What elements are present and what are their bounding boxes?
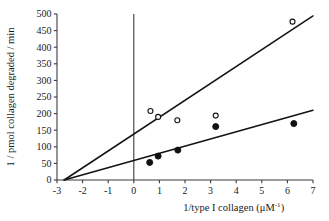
data-point-open bbox=[175, 118, 180, 123]
data-point-open bbox=[156, 114, 161, 119]
axes bbox=[57, 14, 313, 180]
data-point-filled bbox=[147, 159, 153, 165]
data-point-open bbox=[213, 113, 218, 118]
y-tick-label: 350 bbox=[37, 58, 52, 69]
y-tick-label: 200 bbox=[37, 108, 52, 119]
y-tick-label: 100 bbox=[37, 141, 52, 152]
x-tick-label: -3 bbox=[53, 185, 61, 196]
data-point-filled bbox=[291, 121, 297, 127]
x-axis-title-tail: ) bbox=[281, 202, 285, 214]
x-tick-label: -2 bbox=[78, 185, 86, 196]
fit-line-open-circles bbox=[64, 16, 313, 180]
x-tick-label: -1 bbox=[104, 185, 112, 196]
x-axis-title-base: 1/type I collagen (μM bbox=[183, 202, 275, 214]
lineweaver-burk-plot: 050100150200250300350400450500-3-2-10123… bbox=[0, 0, 329, 221]
x-tick-label: 0 bbox=[131, 185, 136, 196]
x-tick-label: 7 bbox=[311, 185, 316, 196]
y-tick-label: 450 bbox=[37, 25, 52, 36]
data-point-open bbox=[290, 19, 295, 24]
y-tick-label: 0 bbox=[47, 174, 52, 185]
data-point-filled bbox=[155, 153, 161, 159]
data-point-open bbox=[148, 108, 153, 113]
tick-labels: 050100150200250300350400450500-3-2-10123… bbox=[37, 8, 316, 195]
y-tick-label: 400 bbox=[37, 42, 52, 53]
tick-marks bbox=[54, 14, 313, 183]
x-tick-label: 5 bbox=[259, 185, 264, 196]
y-tick-label: 300 bbox=[37, 75, 52, 86]
x-axis-title: 1/type I collagen (μM-1) bbox=[183, 201, 285, 214]
y-tick-label: 50 bbox=[42, 158, 52, 169]
axis-titles: 1 / pmol collagen degraded / min1/type I… bbox=[5, 27, 285, 214]
y-tick-label: 500 bbox=[37, 8, 52, 19]
x-tick-label: 2 bbox=[183, 185, 188, 196]
y-axis-title: 1 / pmol collagen degraded / min bbox=[5, 27, 16, 167]
x-tick-label: 1 bbox=[157, 185, 162, 196]
chart-figure: 050100150200250300350400450500-3-2-10123… bbox=[0, 0, 329, 221]
x-tick-label: 6 bbox=[285, 185, 290, 196]
regression-lines bbox=[64, 16, 313, 180]
y-tick-label: 250 bbox=[37, 91, 52, 102]
y-tick-label: 150 bbox=[37, 125, 52, 136]
data-point-filled bbox=[175, 147, 181, 153]
data-point-filled bbox=[213, 124, 219, 130]
x-tick-label: 4 bbox=[234, 185, 239, 196]
fit-line-filled-circles bbox=[64, 110, 313, 180]
x-tick-label: 3 bbox=[208, 185, 213, 196]
